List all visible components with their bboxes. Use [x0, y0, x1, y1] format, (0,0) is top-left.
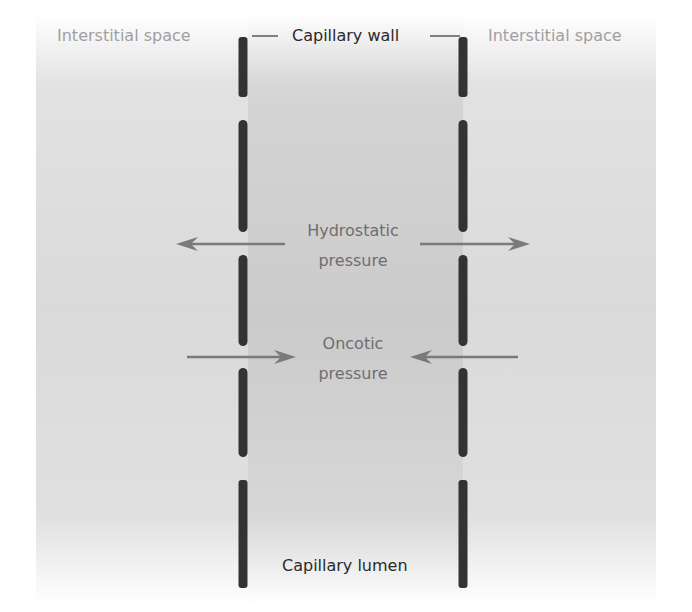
hydrostatic-arrow-right — [420, 237, 530, 251]
wall-segment-right-5 — [459, 480, 468, 588]
oncotic-label-line1: Oncotic — [288, 334, 418, 354]
capillary-diagram: Interstitial space Interstitial space Ca… — [0, 0, 692, 612]
wall-segment-right-3 — [459, 255, 468, 346]
wall-segment-left-2 — [239, 120, 248, 232]
interstitial-space-left-label: Interstitial space — [57, 26, 191, 46]
wall-segment-right-4 — [459, 368, 468, 457]
wall-segment-left-5 — [239, 480, 248, 588]
hydrostatic-label-line2: pressure — [288, 251, 418, 271]
wall-segment-right-2 — [459, 120, 468, 232]
hydrostatic-arrow-left — [176, 237, 285, 251]
interstitial-space-right-label: Interstitial space — [488, 26, 622, 46]
diagram-graphics — [0, 0, 692, 612]
hydrostatic-label-line1: Hydrostatic — [288, 221, 418, 241]
wall-segment-left-3 — [239, 255, 248, 346]
capillary-wall-label: Capillary wall — [292, 26, 399, 46]
wall-segment-left-1 — [239, 37, 248, 97]
capillary-walls — [239, 37, 468, 588]
wall-segment-right-1 — [459, 37, 468, 97]
capillary-lumen-label: Capillary lumen — [282, 556, 408, 576]
oncotic-arrow-right — [410, 350, 518, 364]
oncotic-arrow-left — [187, 350, 296, 364]
oncotic-label-line2: pressure — [288, 364, 418, 384]
wall-segment-left-4 — [239, 368, 248, 457]
